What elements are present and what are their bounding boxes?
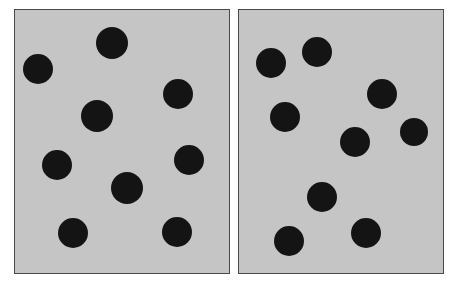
dot-l9 <box>162 217 192 247</box>
dot-r7 <box>307 182 337 212</box>
dot-l6 <box>42 150 72 180</box>
figure-canvas <box>0 0 457 284</box>
dot-l4 <box>81 100 113 132</box>
dot-r8 <box>351 218 381 248</box>
dot-l5 <box>174 145 204 175</box>
dot-r3 <box>270 102 300 132</box>
dot-r5 <box>400 118 428 146</box>
dot-l3 <box>163 79 193 109</box>
dot-r6 <box>340 127 370 157</box>
left-panel-dots <box>15 10 229 273</box>
left-panel <box>14 9 230 274</box>
right-panel <box>238 9 444 274</box>
dot-r2 <box>302 37 332 67</box>
dot-l1 <box>23 54 53 84</box>
dot-l8 <box>58 218 88 248</box>
dot-r9 <box>274 226 304 256</box>
dot-r4 <box>367 79 397 109</box>
dot-l7 <box>111 172 143 204</box>
dot-r1 <box>256 48 286 78</box>
dot-l2 <box>96 27 128 59</box>
right-panel-dots <box>239 10 443 273</box>
